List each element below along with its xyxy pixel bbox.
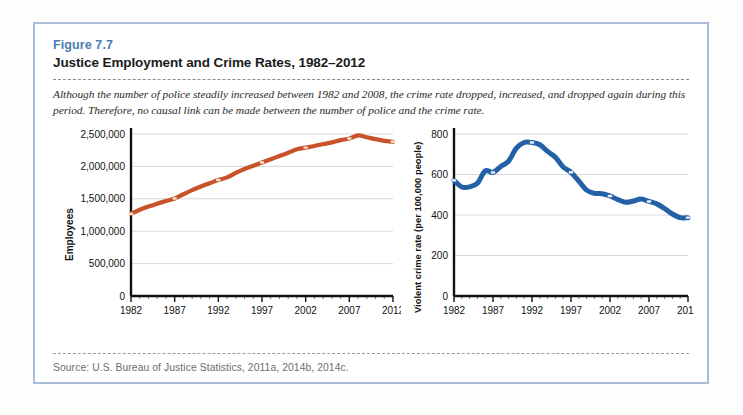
svg-text:1,000,000: 1,000,000 bbox=[81, 226, 126, 237]
svg-text:2007: 2007 bbox=[638, 305, 661, 316]
figure-title: Justice Employment and Crime Rates, 1982… bbox=[53, 55, 689, 70]
svg-text:200: 200 bbox=[432, 251, 449, 262]
charts-row: Employees 0500,0001,000,0001,500,0002,00… bbox=[53, 124, 689, 324]
employees-line-chart: 0500,0001,000,0001,500,0002,000,0002,500… bbox=[53, 124, 401, 324]
svg-text:600: 600 bbox=[432, 170, 449, 181]
svg-text:2002: 2002 bbox=[599, 305, 622, 316]
figure-number-label: Figure 7.7 bbox=[53, 38, 689, 52]
svg-text:1987: 1987 bbox=[164, 305, 187, 316]
svg-text:1982: 1982 bbox=[120, 305, 143, 316]
divider-source bbox=[53, 353, 689, 354]
figure-content: Figure 7.7 Justice Employment and Crime … bbox=[35, 24, 707, 382]
source-note: Source: U.S. Bureau of Justice Statistic… bbox=[53, 362, 349, 373]
divider-top bbox=[53, 79, 689, 80]
svg-text:1,500,000: 1,500,000 bbox=[81, 194, 126, 205]
page-background: Figure 7.7 Justice Employment and Crime … bbox=[0, 0, 743, 415]
svg-text:1987: 1987 bbox=[482, 305, 505, 316]
svg-text:2002: 2002 bbox=[295, 305, 318, 316]
svg-text:2012: 2012 bbox=[677, 305, 694, 316]
figure-caption: Although the number of police steadily i… bbox=[53, 87, 689, 118]
chart-panel-crime-rate: Violent crime rate (per 100,000 people) … bbox=[402, 124, 689, 324]
svg-text:2,500,000: 2,500,000 bbox=[81, 129, 126, 140]
svg-text:2012: 2012 bbox=[382, 305, 401, 316]
svg-text:400: 400 bbox=[432, 210, 449, 221]
svg-text:1997: 1997 bbox=[251, 305, 274, 316]
svg-text:2007: 2007 bbox=[338, 305, 361, 316]
chart-panel-employees: Employees 0500,0001,000,0001,500,0002,00… bbox=[53, 124, 394, 324]
svg-text:0: 0 bbox=[119, 291, 125, 302]
crime-rate-line-chart: 0200400600800198219871992199720022007201… bbox=[402, 124, 694, 324]
svg-text:1982: 1982 bbox=[443, 305, 466, 316]
svg-text:2,000,000: 2,000,000 bbox=[81, 161, 126, 172]
svg-text:0: 0 bbox=[443, 291, 449, 302]
svg-text:500,000: 500,000 bbox=[89, 259, 126, 270]
svg-text:800: 800 bbox=[432, 129, 449, 140]
svg-text:1992: 1992 bbox=[521, 305, 544, 316]
figure-box: Figure 7.7 Justice Employment and Crime … bbox=[33, 22, 709, 384]
svg-text:1997: 1997 bbox=[560, 305, 583, 316]
svg-text:1992: 1992 bbox=[207, 305, 230, 316]
